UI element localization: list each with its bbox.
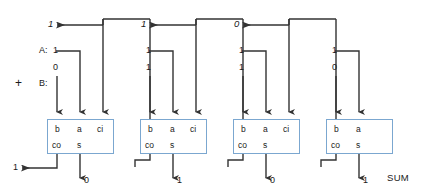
adder-3-sum-value: 0 — [270, 176, 275, 185]
wire-layer — [0, 0, 423, 196]
adder-3-b-value: 1 — [239, 63, 244, 72]
adder-3-a-value: 1 — [239, 46, 244, 55]
port-s-1: s — [77, 141, 81, 150]
port-s-3: s — [263, 141, 267, 150]
carry-out-final-value: 1 — [13, 163, 18, 172]
full-adder-4[interactable]: b a co s — [326, 119, 393, 154]
carry-label-3: 0 — [234, 19, 239, 29]
full-adder-3[interactable]: b a ci co s — [233, 119, 300, 154]
port-s-2: s — [170, 141, 174, 150]
adder-2-sum-value: 1 — [177, 176, 182, 185]
operand-b-label: B: — [39, 79, 48, 88]
port-a-2: a — [170, 125, 175, 134]
port-b-2: b — [148, 125, 153, 134]
ripple-carry-adder-diagram: 1 1 0 + A: B: 1 1 1 1 0 1 1 0 b a ci co … — [0, 0, 423, 196]
port-a-1: a — [77, 125, 82, 134]
port-co-3: co — [238, 141, 247, 150]
port-b-3: b — [241, 125, 246, 134]
port-ci-3: ci — [283, 125, 289, 134]
port-a-4: a — [356, 125, 361, 134]
adder-4-b-value: 0 — [332, 63, 337, 72]
wire-a-input-1 — [56, 51, 80, 112]
port-ci-1: ci — [97, 125, 103, 134]
port-co-1: co — [52, 141, 61, 150]
port-b-1: b — [55, 125, 60, 134]
wire-a-input-3 — [242, 51, 266, 112]
port-s-4: s — [356, 141, 360, 150]
port-a-3: a — [263, 125, 268, 134]
port-ci-2: ci — [190, 125, 196, 134]
carry-label-1: 1 — [48, 19, 53, 29]
adder-4-sum-value: 1 — [363, 176, 368, 185]
wire-a-input-4 — [335, 51, 359, 112]
port-co-4: co — [331, 141, 340, 150]
adder-1-b-value: 0 — [53, 63, 58, 72]
port-co-2: co — [145, 141, 154, 150]
wire-carry-out-final — [22, 153, 57, 168]
adder-4-a-value: 1 — [332, 46, 337, 55]
adder-1-sum-value: 0 — [84, 176, 89, 185]
adder-1-a-value: 1 — [53, 46, 58, 55]
carry-label-2: 1 — [141, 19, 146, 29]
full-adder-1[interactable]: b a ci co s — [47, 119, 114, 154]
port-b-4: b — [334, 125, 339, 134]
sum-caption: SUM — [387, 173, 409, 183]
operand-a-label: A: — [39, 46, 48, 55]
plus-sign: + — [15, 77, 22, 89]
adder-2-b-value: 1 — [146, 63, 151, 72]
wire-a-input-2 — [149, 51, 173, 112]
adder-2-a-value: 1 — [146, 46, 151, 55]
full-adder-2[interactable]: b a ci co s — [140, 119, 207, 154]
